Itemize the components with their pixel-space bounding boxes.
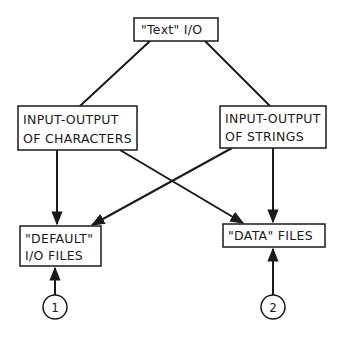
edge-text-to-chars: [80, 41, 150, 106]
node-text-io: "Text" I/O: [134, 18, 218, 41]
node-data-files-label: "DATA" FILES: [228, 228, 313, 243]
marker-1: 1: [43, 295, 67, 319]
io-hierarchy-diagram: "Text" I/O INPUT-OUTPUT OF CHARACTERS IN…: [0, 0, 344, 339]
node-text-io-label: "Text" I/O: [141, 22, 203, 37]
node-io-strings-line1: INPUT-OUTPUT: [225, 111, 321, 126]
edge-chars-to-data: [120, 150, 243, 223]
node-default-files-line2: I/O FILES: [25, 248, 83, 263]
node-io-strings: INPUT-OUTPUT OF STRINGS: [220, 106, 326, 148]
edge-strings-to-default: [92, 148, 232, 225]
node-default-files: "DEFAULT" I/O FILES: [20, 226, 101, 266]
marker-2: 2: [261, 295, 285, 319]
marker-1-label: 1: [51, 301, 59, 315]
node-io-characters: INPUT-OUTPUT OF CHARACTERS: [18, 106, 137, 150]
node-io-characters-line1: INPUT-OUTPUT: [23, 112, 119, 127]
node-io-characters-line2: OF CHARACTERS: [23, 131, 132, 146]
marker-2-label: 2: [269, 301, 277, 315]
node-data-files: "DATA" FILES: [223, 224, 325, 247]
node-default-files-line1: "DEFAULT": [25, 231, 93, 246]
node-io-strings-line2: OF STRINGS: [225, 129, 304, 144]
edge-text-to-strings: [205, 41, 270, 106]
